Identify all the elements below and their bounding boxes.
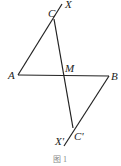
label-C-prime: C': [74, 130, 84, 142]
label-A: A: [7, 69, 15, 81]
label-X-prime: X': [54, 135, 65, 147]
label-X: X: [64, 0, 73, 10]
label-M: M: [64, 62, 75, 74]
figure-caption: 图 1: [53, 155, 67, 164]
geometry-figure: C X A M B C' X' 图 1: [0, 0, 121, 166]
ray-AX: [18, 4, 62, 75]
label-B: B: [111, 70, 118, 82]
ray-BX-prime: [64, 76, 109, 146]
label-C: C: [48, 7, 56, 19]
